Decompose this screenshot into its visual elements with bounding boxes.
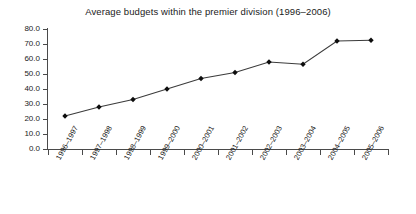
series-markers [62, 38, 373, 119]
data-point [164, 86, 169, 91]
data-point [368, 38, 373, 43]
data-point [232, 70, 237, 75]
data-series-layer [0, 0, 416, 214]
data-point [198, 76, 203, 81]
data-point [96, 104, 101, 109]
chart-container: Average budgets within the premier divis… [0, 0, 416, 214]
data-point [266, 59, 271, 64]
data-point [130, 97, 135, 102]
series-line [65, 40, 371, 116]
data-point [62, 113, 67, 118]
